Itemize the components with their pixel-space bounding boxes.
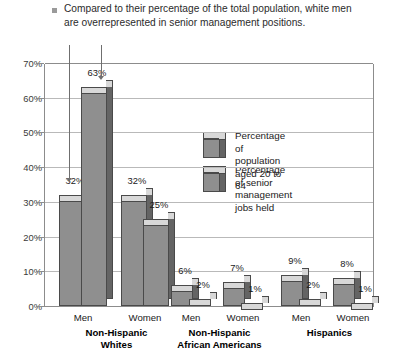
y-axis: 0%10%20%30%40%50%60%70% — [0, 64, 42, 307]
bar-value-label: 2% — [185, 279, 221, 290]
bar-senior-management — [241, 296, 263, 306]
bar-value-label: 63% — [77, 67, 117, 78]
sub-group-label: Men — [274, 312, 328, 323]
bar-senior-management — [299, 292, 321, 306]
square-bullet-icon — [52, 8, 57, 13]
bar-value-label: 6% — [167, 265, 203, 276]
bar-value-label: 32% — [117, 175, 157, 186]
y-axis-tick — [36, 237, 44, 238]
sub-group-label: Men — [52, 312, 114, 323]
bar-senior-management — [81, 80, 107, 306]
sub-group-label: Women — [326, 312, 380, 323]
cube-icon — [203, 132, 227, 158]
annotation-leader-line — [69, 45, 70, 178]
sub-group-label: Women — [216, 312, 270, 323]
chart-caption: Compared to their percentage of the tota… — [52, 2, 352, 30]
sub-group-label: Men — [164, 312, 218, 323]
annotation-leader-line — [101, 45, 102, 76]
y-axis-tick — [36, 132, 44, 133]
caption-text: Compared to their percentage of the tota… — [64, 2, 352, 30]
y-axis-tick — [36, 98, 44, 99]
bar-value-label: 7% — [219, 262, 255, 273]
gridline — [45, 63, 373, 64]
group-label: Hispanics — [250, 327, 405, 339]
annotation-arrowhead — [66, 178, 72, 182]
y-axis-tick — [36, 306, 44, 307]
bar-value-label: 8% — [329, 258, 365, 269]
y-axis-tick — [36, 202, 44, 203]
annotation-arrowhead — [98, 76, 104, 80]
bar-value-label: 1% — [347, 283, 383, 294]
bar-value-label: 25% — [139, 199, 179, 210]
bar-senior-management — [351, 296, 373, 306]
bar-value-label: 9% — [277, 255, 313, 266]
legend-item-label: Percentage of senior management jobs hel… — [235, 164, 292, 214]
bar-value-label: 1% — [237, 283, 273, 294]
cube-icon — [203, 166, 227, 192]
y-axis-tick — [36, 167, 44, 168]
plot-area: Percentage of population aged 20 to 64 P… — [44, 64, 374, 307]
bar-senior-management — [143, 212, 169, 306]
bar-value-label: 2% — [295, 279, 331, 290]
y-axis-tick — [36, 271, 44, 272]
bar-senior-management — [189, 292, 211, 306]
y-axis-tick — [36, 63, 44, 64]
chart-figure: Compared to their percentage of the tota… — [0, 0, 405, 363]
